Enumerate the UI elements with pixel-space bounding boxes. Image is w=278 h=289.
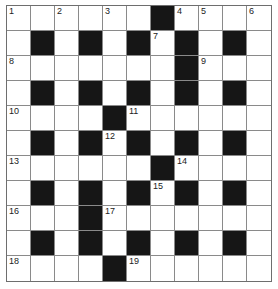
letter-cell[interactable] xyxy=(199,31,223,56)
letter-cell[interactable]: 16 xyxy=(7,206,31,231)
letter-cell[interactable]: 17 xyxy=(103,206,127,231)
letter-cell[interactable] xyxy=(55,131,79,156)
letter-cell[interactable] xyxy=(55,181,79,206)
letter-cell[interactable] xyxy=(103,156,127,181)
letter-cell[interactable]: 12 xyxy=(103,131,127,156)
clue-number: 11 xyxy=(129,107,138,116)
letter-cell[interactable] xyxy=(199,106,223,131)
letter-cell[interactable] xyxy=(199,256,223,281)
clue-number: 7 xyxy=(153,32,158,41)
letter-cell[interactable] xyxy=(223,206,247,231)
letter-cell[interactable] xyxy=(151,206,175,231)
letter-cell[interactable]: 5 xyxy=(199,6,223,31)
letter-cell[interactable] xyxy=(55,81,79,106)
letter-cell[interactable] xyxy=(175,206,199,231)
letter-cell[interactable] xyxy=(247,31,271,56)
letter-cell[interactable] xyxy=(31,256,55,281)
letter-cell[interactable] xyxy=(79,56,103,81)
letter-cell[interactable] xyxy=(127,156,151,181)
letter-cell[interactable] xyxy=(55,256,79,281)
letter-cell[interactable] xyxy=(199,206,223,231)
letter-cell[interactable] xyxy=(31,56,55,81)
letter-cell[interactable] xyxy=(79,256,103,281)
letter-cell[interactable] xyxy=(79,6,103,31)
letter-cell[interactable] xyxy=(199,81,223,106)
letter-cell[interactable]: 1 xyxy=(7,6,31,31)
letter-cell[interactable] xyxy=(199,231,223,256)
letter-cell[interactable]: 4 xyxy=(175,6,199,31)
letter-cell[interactable] xyxy=(55,156,79,181)
letter-cell[interactable] xyxy=(31,106,55,131)
letter-cell[interactable] xyxy=(175,256,199,281)
clue-number: 6 xyxy=(249,7,254,16)
letter-cell[interactable] xyxy=(55,56,79,81)
letter-cell[interactable] xyxy=(103,31,127,56)
letter-cell[interactable]: 6 xyxy=(247,6,271,31)
black-square xyxy=(127,31,151,56)
letter-cell[interactable] xyxy=(151,56,175,81)
black-square xyxy=(175,31,199,56)
letter-cell[interactable] xyxy=(223,6,247,31)
letter-cell[interactable] xyxy=(247,131,271,156)
letter-cell[interactable] xyxy=(151,81,175,106)
black-square xyxy=(31,181,55,206)
letter-cell[interactable] xyxy=(31,6,55,31)
letter-cell[interactable]: 13 xyxy=(7,156,31,181)
letter-cell[interactable] xyxy=(151,256,175,281)
letter-cell[interactable] xyxy=(31,206,55,231)
letter-cell[interactable] xyxy=(127,56,151,81)
clue-number: 5 xyxy=(201,7,206,16)
letter-cell[interactable] xyxy=(103,231,127,256)
letter-cell[interactable] xyxy=(127,6,151,31)
clue-number: 13 xyxy=(9,157,19,166)
letter-cell[interactable] xyxy=(223,156,247,181)
letter-cell[interactable] xyxy=(79,106,103,131)
letter-cell[interactable] xyxy=(247,56,271,81)
letter-cell[interactable] xyxy=(127,206,151,231)
letter-cell[interactable] xyxy=(7,181,31,206)
letter-cell[interactable]: 8 xyxy=(7,56,31,81)
letter-cell[interactable] xyxy=(199,181,223,206)
letter-cell[interactable] xyxy=(7,131,31,156)
letter-cell[interactable]: 3 xyxy=(103,6,127,31)
letter-cell[interactable] xyxy=(55,206,79,231)
letter-cell[interactable] xyxy=(247,231,271,256)
letter-cell[interactable]: 18 xyxy=(7,256,31,281)
letter-cell[interactable] xyxy=(7,81,31,106)
letter-cell[interactable] xyxy=(151,131,175,156)
letter-cell[interactable]: 14 xyxy=(175,156,199,181)
letter-cell[interactable] xyxy=(175,106,199,131)
letter-cell[interactable] xyxy=(247,256,271,281)
letter-cell[interactable]: 10 xyxy=(7,106,31,131)
letter-cell[interactable] xyxy=(103,181,127,206)
letter-cell[interactable] xyxy=(247,106,271,131)
letter-cell[interactable] xyxy=(79,156,103,181)
letter-cell[interactable]: 7 xyxy=(151,31,175,56)
letter-cell[interactable] xyxy=(151,231,175,256)
letter-cell[interactable] xyxy=(7,31,31,56)
letter-cell[interactable] xyxy=(199,156,223,181)
letter-cell[interactable] xyxy=(247,181,271,206)
letter-cell[interactable] xyxy=(55,31,79,56)
letter-cell[interactable] xyxy=(55,106,79,131)
letter-cell[interactable] xyxy=(103,56,127,81)
letter-cell[interactable] xyxy=(247,206,271,231)
letter-cell[interactable] xyxy=(223,106,247,131)
letter-cell[interactable]: 15 xyxy=(151,181,175,206)
clue-number: 17 xyxy=(105,207,115,216)
letter-cell[interactable] xyxy=(151,106,175,131)
letter-cell[interactable] xyxy=(103,81,127,106)
letter-cell[interactable] xyxy=(7,231,31,256)
letter-cell[interactable] xyxy=(223,256,247,281)
letter-cell[interactable] xyxy=(247,156,271,181)
letter-cell[interactable]: 2 xyxy=(55,6,79,31)
letter-cell[interactable]: 9 xyxy=(199,56,223,81)
letter-cell[interactable]: 11 xyxy=(127,106,151,131)
letter-cell[interactable] xyxy=(199,131,223,156)
letter-cell[interactable]: 19 xyxy=(127,256,151,281)
letter-cell[interactable] xyxy=(31,156,55,181)
letter-cell[interactable] xyxy=(223,56,247,81)
clue-number: 12 xyxy=(105,132,115,141)
letter-cell[interactable] xyxy=(247,81,271,106)
letter-cell[interactable] xyxy=(55,231,79,256)
